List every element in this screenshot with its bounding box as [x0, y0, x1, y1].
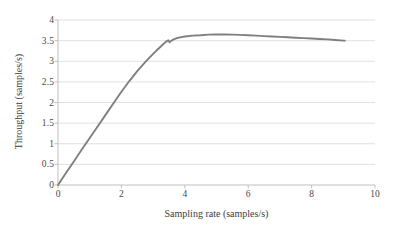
y-axis-title: Throughput (samples/s)	[13, 32, 24, 172]
y-tick-label-1.5: 1.5	[28, 118, 54, 128]
x-tick-label-10: 10	[363, 189, 387, 199]
tick-marks-group	[55, 20, 376, 189]
chart-figure: 00.511.522.533.54 0246810 Throughput (sa…	[0, 0, 403, 237]
x-axis-title: Sampling rate (samples/s)	[58, 208, 375, 219]
x-tick-label-0: 0	[46, 189, 70, 199]
x-tick-label-6: 6	[236, 189, 260, 199]
y-tick-label-2: 2	[28, 98, 54, 108]
data-line-series-throughput	[58, 34, 345, 185]
y-axis-tick-labels: 00.511.522.533.54	[26, 0, 54, 237]
y-tick-label-3: 3	[28, 56, 54, 66]
gridlines-group	[58, 20, 375, 185]
y-tick-label-1: 1	[28, 139, 54, 149]
chart-canvas	[0, 0, 403, 237]
x-tick-label-4: 4	[173, 189, 197, 199]
y-tick-label-2.5: 2.5	[28, 77, 54, 87]
y-tick-label-4: 4	[28, 15, 54, 25]
y-tick-label-0.5: 0.5	[28, 159, 54, 169]
x-tick-label-8: 8	[300, 189, 324, 199]
y-tick-label-3.5: 3.5	[28, 36, 54, 46]
x-tick-label-2: 2	[109, 189, 133, 199]
